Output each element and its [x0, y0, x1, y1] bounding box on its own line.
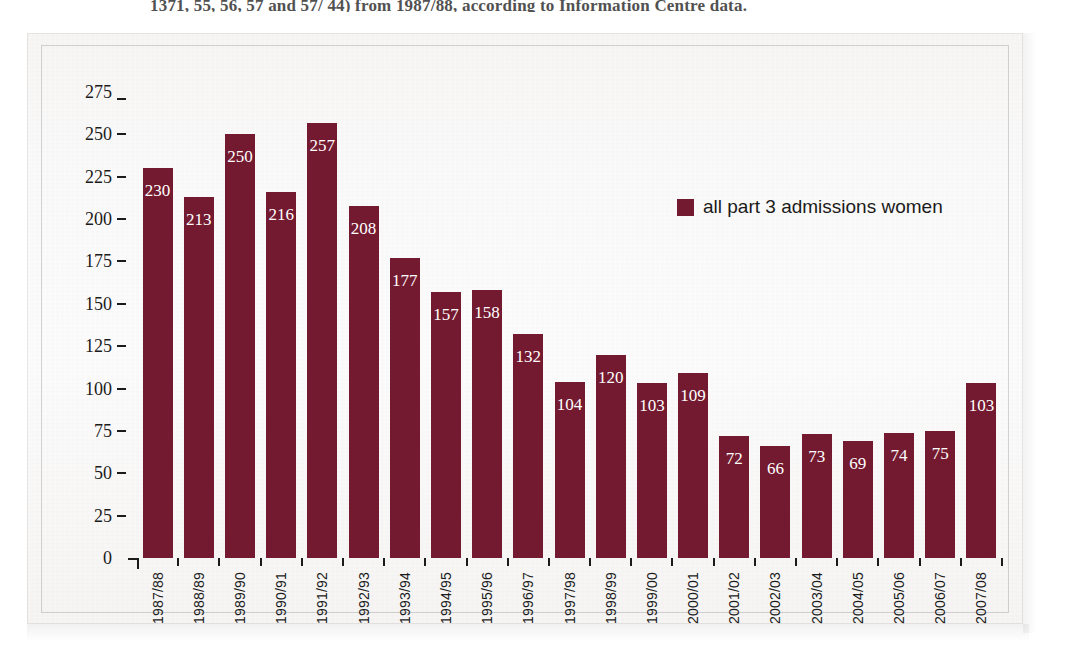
x-axis-tick-mark — [260, 558, 262, 566]
x-axis-tick-mark — [1001, 558, 1003, 566]
chart-legend: all part 3 admissions women — [677, 196, 943, 218]
bar[interactable] — [266, 192, 296, 558]
bar-item[interactable]: 742005/06 — [884, 33, 914, 624]
bar-value-label: 69 — [849, 455, 866, 472]
bar-value-label: 158 — [474, 304, 500, 321]
bar-item[interactable]: 692004/05 — [843, 33, 873, 624]
x-axis-tick-mark — [301, 558, 303, 566]
x-axis-tick-mark — [548, 558, 550, 566]
x-axis-tick-mark — [919, 558, 921, 566]
bar-value-label: 132 — [516, 348, 542, 365]
x-axis-tick-label: 1989/90 — [232, 572, 248, 624]
x-axis-tick-label: 2002/03 — [767, 572, 783, 624]
bar-item[interactable]: 1201998/99 — [596, 33, 626, 624]
bar-item[interactable]: 1581995/96 — [472, 33, 502, 624]
x-axis-tick-mark — [630, 558, 632, 566]
x-axis-tick-mark — [795, 558, 797, 566]
bar-item[interactable]: 662002/03 — [760, 33, 790, 624]
bar-item[interactable]: 2501989/90 — [225, 33, 255, 624]
bar-value-label: 213 — [186, 211, 212, 228]
x-axis-tick-label: 1999/00 — [644, 572, 660, 624]
x-axis-tick-mark — [754, 558, 756, 566]
bar-value-label: 208 — [351, 220, 377, 237]
x-axis-tick-mark — [877, 558, 879, 566]
x-axis-tick-label: 2007/08 — [973, 572, 989, 624]
bar-item[interactable]: 1571994/95 — [431, 33, 461, 624]
bar[interactable] — [225, 134, 255, 558]
x-axis-tick-label: 2003/04 — [809, 572, 825, 624]
x-axis-tick-mark — [507, 558, 509, 566]
bar-item[interactable]: 732003/04 — [802, 33, 832, 624]
x-axis-tick-mark — [836, 558, 838, 566]
bar-item[interactable]: 722001/02 — [719, 33, 749, 624]
x-axis-tick-label: 1992/93 — [356, 572, 372, 624]
bar-item[interactable]: 2131988/89 — [184, 33, 214, 624]
chart-figure: 0255075100125150175200225250275 2301987/… — [27, 33, 1023, 624]
x-axis-tick-label: 1990/91 — [273, 572, 289, 624]
x-axis-tick-label: 2004/05 — [850, 572, 866, 624]
bar-value-label: 120 — [598, 369, 624, 386]
bar-value-label: 250 — [227, 148, 253, 165]
bar[interactable] — [472, 290, 502, 558]
bar-item[interactable]: 2301987/88 — [143, 33, 173, 624]
bar-value-label: 257 — [310, 137, 336, 154]
x-axis-tick-mark — [960, 558, 962, 566]
legend-swatch-icon — [677, 199, 694, 216]
bar[interactable] — [431, 292, 461, 558]
bar[interactable] — [513, 334, 543, 558]
x-axis-tick-mark — [218, 558, 220, 566]
x-axis-tick-label: 2000/01 — [685, 572, 701, 624]
bar-item[interactable]: 2571991/92 — [307, 33, 337, 624]
x-axis-tick-label: 1997/98 — [562, 572, 578, 624]
x-axis-tick-mark — [177, 558, 179, 566]
bar[interactable] — [143, 168, 173, 558]
bar-item[interactable]: 752006/07 — [925, 33, 955, 624]
bar-value-label: 103 — [969, 397, 995, 414]
page-body-text-fragment: 1371, 55, 56, 57 and 57/ 44) from 1987/8… — [150, 0, 940, 12]
bar-item[interactable]: 2161990/91 — [266, 33, 296, 624]
x-axis-tick-label: 2006/07 — [932, 572, 948, 624]
scanned-page: 1371, 55, 56, 57 and 57/ 44) from 1987/8… — [0, 0, 1070, 658]
bar-value-label: 216 — [268, 206, 294, 223]
bar-item[interactable]: 1321996/97 — [513, 33, 543, 624]
x-axis-tick-label: 2001/02 — [726, 572, 742, 624]
x-axis-tick-mark — [466, 558, 468, 566]
x-axis-tick-label: 1996/97 — [520, 572, 536, 624]
bar-value-label: 74 — [891, 447, 908, 464]
x-axis-tick-label: 1998/99 — [603, 572, 619, 624]
x-axis-tick-mark — [383, 558, 385, 566]
bar-item[interactable]: 2081992/93 — [349, 33, 379, 624]
bar[interactable] — [349, 206, 379, 558]
legend-label: all part 3 admissions women — [703, 196, 943, 218]
x-axis-tick-mark — [424, 558, 426, 566]
bar-value-label: 66 — [767, 460, 784, 477]
bar-value-label: 230 — [145, 182, 171, 199]
x-axis-tick-mark — [713, 558, 715, 566]
x-axis-tick-mark — [589, 558, 591, 566]
bar-value-label: 104 — [557, 396, 583, 413]
bar-chart: 0255075100125150175200225250275 2301987/… — [27, 33, 1023, 624]
bar-item[interactable]: 1031999/00 — [637, 33, 667, 624]
scan-shadow-right — [1023, 33, 1037, 633]
bar-value-label: 73 — [808, 448, 825, 465]
bar-item[interactable]: 1771993/94 — [390, 33, 420, 624]
bar[interactable] — [307, 123, 337, 558]
bar-value-label: 177 — [392, 272, 418, 289]
bar-value-label: 103 — [639, 397, 665, 414]
bar[interactable] — [184, 197, 214, 558]
x-axis-tick-label: 1994/95 — [438, 572, 454, 624]
bar[interactable] — [390, 258, 420, 558]
x-axis-tick-label: 1991/92 — [314, 572, 330, 624]
x-axis-tick-label: 1993/94 — [397, 572, 413, 624]
bar-item[interactable]: 1041997/98 — [555, 33, 585, 624]
x-axis-tick-label: 1987/88 — [150, 572, 166, 624]
bar-series-group: 2301987/882131988/892501989/902161990/91… — [27, 33, 1023, 624]
bar-item[interactable]: 1092000/01 — [678, 33, 708, 624]
bar-value-label: 72 — [726, 450, 743, 467]
bar-value-label: 109 — [680, 387, 706, 404]
x-axis-tick-label: 2005/06 — [891, 572, 907, 624]
x-axis-tick-label: 1995/96 — [479, 572, 495, 624]
bar-item[interactable]: 1032007/08 — [966, 33, 996, 624]
bar-value-label: 157 — [433, 306, 459, 323]
x-axis-tick-mark — [671, 558, 673, 566]
